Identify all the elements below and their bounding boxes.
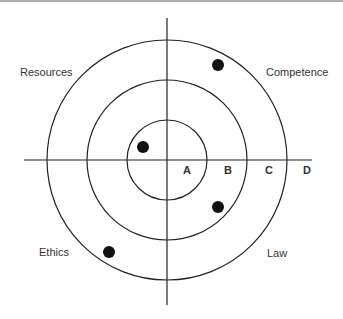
label-law: Law xyxy=(267,247,287,259)
point-competence xyxy=(212,59,224,71)
ring-label-d: D xyxy=(303,164,311,176)
point-resources xyxy=(137,141,149,153)
label-competence: Competence xyxy=(266,66,328,78)
target-diagram: Resources Competence Ethics Law A B C D xyxy=(0,0,343,319)
ring-label-a: A xyxy=(183,164,191,176)
label-resources: Resources xyxy=(20,66,73,78)
point-law xyxy=(212,201,224,213)
ring-label-c: C xyxy=(265,164,273,176)
ring-label-b: B xyxy=(224,164,232,176)
label-ethics: Ethics xyxy=(39,246,69,258)
point-ethics xyxy=(103,246,115,258)
